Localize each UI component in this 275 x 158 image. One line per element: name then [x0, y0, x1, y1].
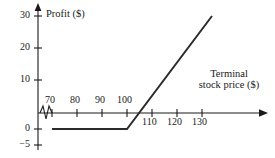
x-tick-label-110: 110 [142, 117, 157, 128]
y-axis-arrow-icon [35, 3, 42, 11]
y-tick-label-10: 10 [6, 74, 30, 85]
x-axis-title: Terminal stock price ($) [186, 68, 272, 90]
profit-diagram-chart: 30 20 10 0 −5 70 80 90 100 110 120 130 P… [0, 0, 275, 158]
x-axis-arrow-icon [259, 109, 268, 117]
x-tick-label-100: 100 [117, 95, 132, 106]
x-axis-title-line-1: Terminal [186, 68, 272, 79]
x-tick-label-130: 130 [192, 117, 207, 128]
x-tick-label-70: 70 [45, 95, 55, 106]
x-tick-label-120: 120 [167, 117, 182, 128]
y-tick-label-30: 30 [6, 10, 30, 21]
x-tick-label-90: 90 [95, 95, 105, 106]
y-tick-label-minus-5: −5 [4, 139, 30, 150]
y-tick-label-0: 0 [6, 123, 30, 134]
x-axis-title-line-2: stock price ($) [186, 79, 272, 90]
y-tick-label-20: 20 [6, 42, 30, 53]
y-axis-title: Profit ($) [46, 8, 85, 19]
x-tick-label-80: 80 [70, 95, 80, 106]
